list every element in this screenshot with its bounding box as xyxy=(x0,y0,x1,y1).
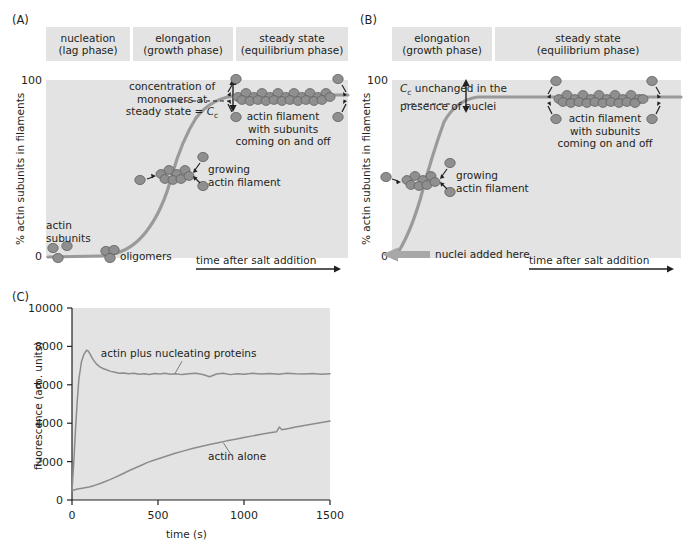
panel-c-x-tick-label: 1500 xyxy=(316,509,344,522)
panel-c-x-tick-label: 0 xyxy=(69,509,76,522)
panel-c-y-tick-label: 4000 xyxy=(35,417,63,430)
panel-c-y-tick-label: 10000 xyxy=(28,302,63,315)
panel-c-x-axis-label: time (s) xyxy=(166,528,207,540)
panel-c-x-tick-label: 1000 xyxy=(230,509,258,522)
panel-c-y-tick-label: 2000 xyxy=(35,456,63,469)
panel-c-chart-graphics: 0200040006000800010000050010001500actin … xyxy=(0,0,693,551)
panel-c-y-tick-label: 8000 xyxy=(35,340,63,353)
panel-c-series-1 xyxy=(72,421,330,491)
panel-c-x-tick-label: 500 xyxy=(148,509,169,522)
panel-c-annotation-1: actin alone xyxy=(208,450,266,462)
panel-c-y-tick-label: 0 xyxy=(56,494,63,507)
panel-c-axis-lines xyxy=(72,308,330,500)
panel-c-annotation-0: actin plus nucleating proteins xyxy=(101,347,257,359)
panel-c-annotation-leader-0 xyxy=(175,361,182,373)
panel-c-series-0 xyxy=(72,350,330,491)
panel-c-y-tick-label: 6000 xyxy=(35,379,63,392)
